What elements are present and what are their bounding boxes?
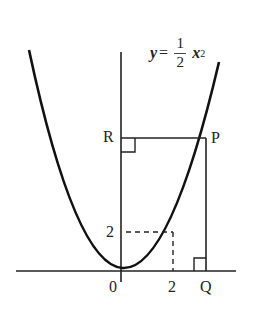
fraction-numerator: 1 xyxy=(176,36,184,52)
x-tick-label: 2 xyxy=(168,279,176,295)
origin-label: 0 xyxy=(109,279,117,295)
point-label-r: R xyxy=(103,129,114,145)
equation-lhs: y xyxy=(150,44,157,62)
equation-variable: x xyxy=(192,44,200,62)
y-tick-label: 2 xyxy=(106,224,114,240)
point-label-p: P xyxy=(211,130,220,146)
equation-equals: = xyxy=(159,44,168,62)
equation-exponent: 2 xyxy=(200,48,205,59)
right-angle-q xyxy=(194,258,206,271)
parabola-curve xyxy=(29,50,219,268)
right-angle-r xyxy=(121,138,135,152)
fraction-denominator: 2 xyxy=(176,55,184,71)
equation-label: y = 1 2 x2 xyxy=(150,36,205,71)
point-label-q: Q xyxy=(200,279,212,295)
diagram-canvas xyxy=(0,0,257,316)
equation-fraction: 1 2 xyxy=(174,36,186,71)
